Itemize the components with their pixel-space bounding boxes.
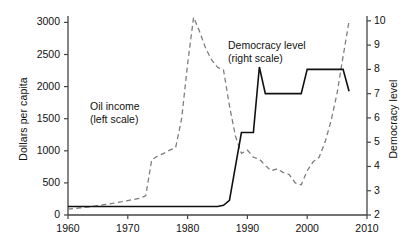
right-tick-label-5: 5 bbox=[374, 135, 414, 147]
right-tick-label-6: 6 bbox=[374, 111, 414, 123]
annotation-oil-income-line2: (left scale) bbox=[90, 113, 140, 126]
right-tick-label-4: 4 bbox=[374, 159, 414, 171]
left-tick-label-0: 0 bbox=[20, 208, 60, 220]
annotation-democracy-level-line1: Democracy level bbox=[228, 39, 306, 52]
right-tick-label-9: 9 bbox=[374, 38, 414, 50]
x-tick-label-1990: 1990 bbox=[225, 222, 269, 234]
x-tick-label-2010: 2010 bbox=[345, 222, 389, 234]
right-tick-label-10: 10 bbox=[374, 14, 414, 26]
left-tick-label-2000: 2000 bbox=[20, 80, 60, 92]
left-tick-label-1000: 1000 bbox=[20, 144, 60, 156]
right-tick-label-7: 7 bbox=[374, 87, 414, 99]
annotation-oil-income-line1: Oil income bbox=[90, 100, 140, 113]
annotation-oil-income: Oil income (left scale) bbox=[90, 100, 140, 126]
right-tick-label-8: 8 bbox=[374, 62, 414, 74]
right-tick-label-3: 3 bbox=[374, 184, 414, 196]
x-tick-label-1960: 1960 bbox=[46, 222, 90, 234]
annotation-democracy-level-line2: (right scale) bbox=[228, 52, 306, 65]
x-tick-label-2000: 2000 bbox=[285, 222, 329, 234]
left-tick-label-500: 500 bbox=[20, 176, 60, 188]
series-line-democracy-level bbox=[68, 67, 349, 207]
left-tick-label-2500: 2500 bbox=[20, 48, 60, 60]
left-tick-label-3000: 3000 bbox=[20, 15, 60, 27]
chart-canvas bbox=[0, 0, 416, 251]
right-tick-label-2: 2 bbox=[374, 208, 414, 220]
x-tick-label-1970: 1970 bbox=[106, 222, 150, 234]
annotation-democracy-level: Democracy level (right scale) bbox=[228, 39, 306, 65]
left-tick-label-1500: 1500 bbox=[20, 112, 60, 124]
chart-figure: Dollars per capita Democracy level Oil i… bbox=[0, 0, 416, 251]
x-tick-label-1980: 1980 bbox=[166, 222, 210, 234]
